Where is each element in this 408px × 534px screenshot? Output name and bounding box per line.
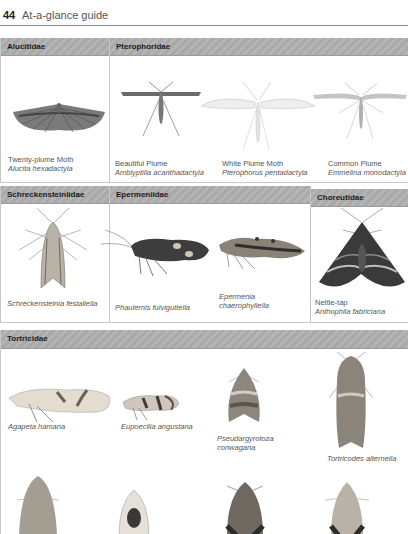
section-tortricidae: Tortricidae Agapeta hamana Eupoecilia an… — [0, 330, 408, 534]
caption-agapeta: Agapeta hamana — [8, 422, 65, 431]
divider — [109, 38, 110, 183]
family-label-pterophoridae: Pterophoridae — [116, 42, 170, 51]
moth-image-pseudargyrotoza — [223, 366, 265, 424]
band-choreutidae: Choreutidae — [311, 189, 408, 207]
page-title: At-a-glance guide — [22, 9, 108, 21]
moth-image-twenty-plume — [9, 100, 109, 140]
caption-tortricodes: Tortricodes alternella — [327, 454, 396, 463]
band-pterophoridae: Pterophoridae — [110, 38, 408, 56]
section-row2: Schreckensteiniidae Epermeniidae Choreut… — [0, 186, 408, 323]
caption-epermenia: Epermenia chaerophyllella — [219, 292, 269, 310]
section-row1: Alucitidae Pterophoridae Twenty-plume Mo… — [0, 38, 408, 183]
caption-common-plume: Common Plume Emmelina monodactyla — [328, 159, 406, 177]
caption-phaulernis: Phaulernis fulviguttella — [115, 303, 190, 312]
moth-image-nettle-tap — [315, 208, 408, 294]
moth-image-schreckensteinia — [15, 208, 91, 294]
moth-image-tortrix-1 — [13, 476, 63, 534]
family-label-choreutidae: Choreutidae — [317, 193, 364, 202]
moth-image-epermenia — [215, 231, 307, 271]
band-alucitidae: Alucitidae — [1, 38, 109, 56]
moth-image-eupoecilia — [121, 390, 181, 420]
band-tortricidae: Tortricidae — [1, 330, 408, 349]
moth-image-agapeta — [7, 382, 111, 424]
caption-pseudargyrotoza: Pseudargyrotoza conwagana — [217, 434, 274, 452]
family-label-tortricidae: Tortricidae — [7, 334, 48, 343]
page-header: 44 At-a-glance guide — [0, 4, 408, 26]
caption-nettle-tap: Nettle-tap Anthophila fabriciana — [315, 298, 385, 316]
band-schreckensteiniidae: Schreckensteiniidae — [1, 186, 109, 204]
caption-beautiful-plume: Beautiful Plume Amblyptilia acanthadacty… — [115, 159, 204, 177]
moth-image-tortrix-2 — [117, 490, 151, 534]
moth-image-tortrix-3 — [223, 480, 267, 534]
divider — [310, 186, 311, 323]
caption-white-plume: White Plume Moth Pterophorus pentadactyl… — [222, 159, 307, 177]
moth-image-tortrix-4 — [323, 482, 371, 534]
family-label-alucitidae: Alucitidae — [7, 42, 45, 51]
moth-image-phaulernis — [101, 226, 213, 278]
moth-image-tortricodes — [327, 352, 375, 450]
family-label-epermeniidae: Epermeniidae — [116, 190, 168, 199]
caption-eupoecilia: Eupoecilia angustana — [121, 422, 193, 431]
moth-image-beautiful-plume — [119, 80, 203, 140]
family-label-schreckensteiniidae: Schreckensteiniidae — [7, 190, 84, 199]
caption-schreckensteinia: Schreckensteinia festaliella — [7, 299, 97, 308]
page-number: 44 — [3, 9, 15, 21]
caption-twenty-plume: Twenty-plume Moth Alucita hexadactyla — [8, 155, 73, 173]
moth-image-white-plume — [199, 82, 317, 150]
band-epermeniidae: Epermeniidae — [110, 186, 310, 204]
moth-image-common-plume — [311, 83, 408, 143]
